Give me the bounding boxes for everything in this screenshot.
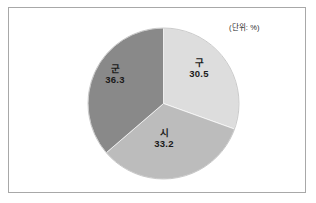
pie-chart-figure: (단위: %) 구 30.5 시 33.2 군 36.3 [0,0,316,203]
pie-plot-area [0,0,316,203]
pie-svg [0,0,316,203]
pie-slice-group [88,28,239,179]
